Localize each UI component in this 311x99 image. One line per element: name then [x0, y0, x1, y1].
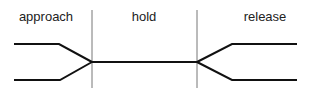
phase-diagram: approach hold release — [0, 0, 311, 99]
release-lower-line — [197, 62, 297, 80]
label-approach: approach — [19, 9, 73, 24]
release-upper-line — [197, 44, 297, 62]
label-release: release — [244, 9, 287, 24]
label-hold: hold — [132, 9, 157, 24]
approach-upper-line — [14, 44, 92, 62]
approach-lower-line — [14, 62, 92, 80]
